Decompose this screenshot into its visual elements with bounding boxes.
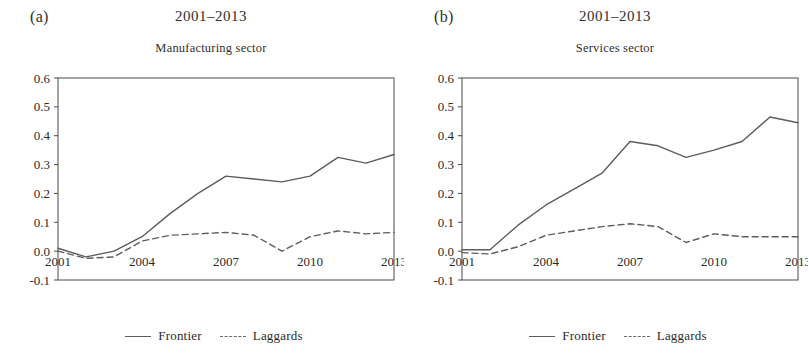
legend-label-frontier: Frontier	[158, 328, 201, 344]
legend-item-frontier: Frontier	[125, 328, 201, 344]
legend-label-laggards: Laggards	[657, 328, 707, 344]
svg-text:0.4: 0.4	[34, 128, 51, 143]
panel-b-period-title: 2001–2013	[404, 8, 808, 25]
legend-line-dashed-icon	[624, 336, 650, 337]
panel-a-period-title: 2001–2013	[0, 8, 404, 25]
svg-text:0.1: 0.1	[438, 215, 454, 230]
legend-item-laggards: Laggards	[220, 328, 303, 344]
figure-two-panel-line-charts: (a) 2001–2013 Manufacturing sector -0.10…	[0, 0, 809, 360]
svg-text:2010: 2010	[701, 254, 727, 269]
legend-item-laggards: Laggards	[624, 328, 707, 344]
svg-text:-0.1: -0.1	[29, 273, 50, 288]
svg-text:2007: 2007	[617, 254, 644, 269]
svg-text:2013: 2013	[381, 254, 404, 269]
legend-line-solid-icon	[529, 336, 555, 337]
panel-a-svg: -0.10.00.10.20.30.40.50.6200120042007201…	[0, 66, 404, 306]
legend-line-solid-icon	[125, 336, 151, 337]
svg-text:2010: 2010	[297, 254, 323, 269]
svg-text:0.6: 0.6	[34, 71, 51, 86]
panel-b-plot-area: -0.10.00.10.20.30.40.50.6200120042007201…	[404, 66, 808, 306]
svg-text:2004: 2004	[533, 254, 560, 269]
legend-line-dashed-icon	[220, 336, 246, 337]
panel-b-svg: -0.10.00.10.20.30.40.50.6200120042007201…	[404, 66, 808, 306]
svg-text:2001: 2001	[449, 254, 475, 269]
svg-text:2013: 2013	[785, 254, 808, 269]
svg-text:0.3: 0.3	[34, 157, 50, 172]
svg-text:0.5: 0.5	[438, 99, 454, 114]
svg-text:0.4: 0.4	[438, 128, 455, 143]
legend-label-frontier: Frontier	[562, 328, 605, 344]
svg-text:2001: 2001	[45, 254, 71, 269]
panel-b: (b) 2001–2013 Services sector -0.10.00.1…	[404, 0, 808, 360]
svg-text:0.2: 0.2	[438, 186, 454, 201]
panel-b-subtitle: Services sector	[404, 41, 808, 56]
svg-text:2007: 2007	[213, 254, 240, 269]
svg-text:0.1: 0.1	[34, 215, 50, 230]
panel-a-plot-area: -0.10.00.10.20.30.40.50.6200120042007201…	[0, 66, 404, 306]
svg-text:0.6: 0.6	[438, 71, 455, 86]
panel-a-legend: Frontier Laggards	[0, 328, 404, 344]
svg-text:0.3: 0.3	[438, 157, 454, 172]
svg-text:2004: 2004	[129, 254, 156, 269]
panel-a: (a) 2001–2013 Manufacturing sector -0.10…	[0, 0, 404, 360]
svg-text:-0.1: -0.1	[433, 273, 454, 288]
svg-text:0.2: 0.2	[34, 186, 50, 201]
svg-text:0.5: 0.5	[34, 99, 50, 114]
panel-b-legend: Frontier Laggards	[404, 328, 808, 344]
legend-item-frontier: Frontier	[529, 328, 605, 344]
panel-a-subtitle: Manufacturing sector	[0, 41, 404, 56]
legend-label-laggards: Laggards	[253, 328, 303, 344]
